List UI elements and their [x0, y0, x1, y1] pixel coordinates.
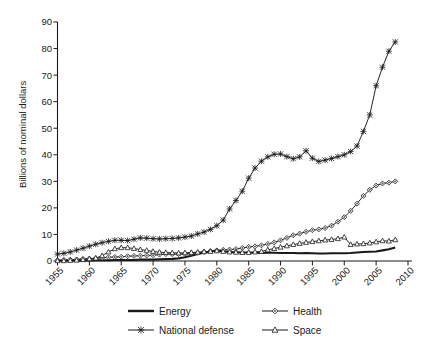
marker-star	[74, 247, 80, 253]
marker-diamond	[138, 253, 143, 258]
marker-star	[278, 151, 284, 157]
marker-star	[329, 156, 335, 162]
legend-item-energy[interactable]: Energy	[128, 306, 191, 317]
x-tick-label-1955: 1955	[43, 265, 66, 288]
marker-star	[144, 235, 150, 241]
marker-diamond	[265, 242, 270, 247]
marker-star	[182, 234, 188, 240]
marker-diamond	[106, 255, 111, 260]
marker-diamond	[310, 228, 315, 233]
marker-diamond	[329, 223, 334, 228]
marker-star	[348, 149, 354, 155]
marker-diamond	[284, 235, 289, 240]
legend-item-national-defense[interactable]: National defense	[128, 325, 234, 336]
legend-item-health[interactable]: Health	[262, 306, 322, 317]
marker-star	[271, 151, 277, 157]
marker-star	[386, 48, 392, 54]
y-tick-label-50: 50	[41, 123, 52, 134]
y-tick-label-20: 20	[41, 202, 52, 213]
marker-star	[367, 112, 373, 118]
legend-item-space[interactable]: Space	[262, 325, 322, 336]
marker-star	[93, 241, 99, 247]
x-axis-tick-marks	[58, 261, 409, 266]
marker-diamond	[112, 255, 117, 260]
marker-star	[131, 236, 137, 242]
legend-label-energy: Energy	[159, 306, 191, 317]
y-tick-label-0: 0	[47, 255, 52, 266]
marker-star	[67, 249, 73, 255]
marker-triangle	[342, 234, 347, 239]
marker-star	[335, 154, 341, 160]
marker-star	[354, 143, 360, 149]
series-layer	[55, 39, 399, 263]
marker-star	[316, 158, 322, 164]
y-axis-tick-labels: 0102030405060708090	[41, 16, 52, 266]
marker-diamond	[125, 254, 130, 259]
series-health	[55, 179, 398, 263]
marker-diamond	[380, 181, 385, 186]
marker-star	[290, 156, 296, 162]
y-axis-tick-marks	[54, 22, 58, 261]
marker-star	[118, 237, 124, 243]
marker-diamond	[304, 229, 309, 234]
marker-star	[265, 154, 271, 160]
marker-diamond	[297, 231, 302, 236]
x-tick-label-2000: 2000	[329, 265, 352, 288]
marker-star	[252, 165, 258, 171]
marker-star	[169, 235, 175, 241]
marker-diamond	[253, 244, 258, 249]
y-axis-title-group: Billions of nominal dollars	[17, 81, 28, 188]
y-tick-label-60: 60	[41, 96, 52, 107]
marker-star	[201, 229, 207, 235]
marker-diamond	[246, 244, 251, 249]
series-line-health	[58, 181, 396, 260]
marker-star	[80, 245, 86, 251]
marker-diamond	[272, 308, 278, 314]
marker-diamond	[259, 243, 264, 248]
legend-label-space: Space	[293, 325, 322, 336]
marker-star	[137, 235, 143, 241]
y-tick-label-30: 30	[41, 176, 52, 187]
series-line-national-defense	[58, 42, 396, 254]
marker-star	[163, 236, 169, 242]
marker-diamond	[374, 183, 379, 188]
marker-star	[258, 158, 264, 164]
marker-star	[392, 39, 398, 45]
line-chart: Billions of nominal dollars 010203040506…	[0, 0, 431, 347]
marker-star	[150, 236, 156, 242]
x-tick-label-2005: 2005	[361, 265, 384, 288]
marker-star	[297, 154, 303, 160]
marker-star	[207, 226, 213, 232]
chart-container: Billions of nominal dollars 010203040506…	[0, 0, 431, 347]
marker-star	[112, 237, 118, 243]
marker-diamond	[323, 226, 328, 231]
marker-star	[176, 235, 182, 241]
marker-star	[341, 152, 347, 158]
marker-diamond	[291, 233, 296, 238]
marker-star	[220, 217, 226, 223]
marker-diamond	[393, 179, 398, 184]
series-national-defense	[55, 39, 399, 257]
x-tick-label-1975: 1975	[170, 265, 193, 288]
marker-star	[373, 83, 379, 89]
marker-star	[156, 236, 162, 242]
marker-star	[55, 251, 61, 257]
marker-triangle	[100, 253, 105, 258]
marker-star	[239, 188, 245, 194]
y-tick-label-80: 80	[41, 43, 52, 54]
marker-diamond	[316, 227, 321, 232]
marker-star	[188, 233, 194, 239]
y-tick-label-90: 90	[41, 16, 52, 27]
marker-triangle	[393, 237, 398, 242]
marker-diamond	[144, 253, 149, 258]
marker-diamond	[119, 254, 124, 259]
marker-star	[309, 155, 315, 161]
marker-star	[214, 223, 220, 229]
legend-label-national-defense: National defense	[159, 325, 234, 336]
marker-diamond	[386, 180, 391, 185]
series-space	[55, 234, 398, 262]
marker-star	[380, 64, 386, 70]
y-tick-label-40: 40	[41, 149, 52, 160]
marker-star	[86, 243, 92, 249]
marker-star	[138, 327, 145, 334]
